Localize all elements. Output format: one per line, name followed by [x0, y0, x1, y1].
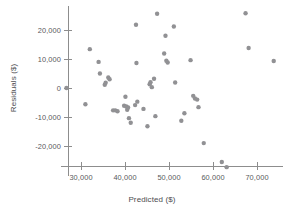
data-point: [115, 109, 119, 113]
x-axis-tick-label: 50,000: [157, 173, 180, 182]
data-point: [173, 80, 177, 84]
data-point: [83, 102, 87, 106]
data-point: [188, 58, 192, 62]
data-point: [152, 77, 156, 81]
x-axis-tick-label: 30,000: [69, 173, 92, 182]
data-point: [145, 124, 149, 128]
data-point: [135, 99, 139, 103]
data-point: [107, 77, 111, 81]
data-point: [64, 86, 68, 90]
data-point: [103, 81, 107, 85]
data-point: [129, 121, 133, 125]
data-point: [202, 141, 206, 145]
x-axis-tick-label: 40,000: [113, 173, 136, 182]
y-axis-tick-label: -10,000: [35, 113, 61, 122]
data-point: [134, 23, 138, 27]
data-point: [272, 59, 276, 63]
data-point: [134, 61, 138, 65]
x-axis-tick-label: 60,000: [201, 173, 224, 182]
data-point: [165, 60, 169, 64]
data-point: [127, 116, 131, 120]
data-point: [182, 111, 186, 115]
chart-canvas: 20,00010,0000-10,000-20,000 30,00040,000…: [0, 0, 285, 206]
data-point: [155, 12, 159, 16]
data-point: [153, 114, 157, 118]
data-point: [220, 160, 224, 164]
data-point: [243, 11, 247, 15]
y-axis-tick-label: 10,000: [38, 55, 61, 64]
data-point: [141, 107, 145, 111]
data-point: [195, 97, 199, 101]
data-point: [123, 95, 127, 99]
data-point: [98, 71, 102, 75]
data-point: [150, 85, 154, 89]
x-axis-title: Predicted ($): [128, 195, 175, 204]
data-point: [126, 105, 130, 109]
data-point: [224, 165, 228, 169]
data-point: [196, 105, 200, 109]
data-point: [88, 47, 92, 51]
y-axis-tick-label: -20,000: [35, 142, 61, 151]
x-axis: 30,00040,00050,00060,00070,000: [61, 162, 283, 182]
y-axis: 20,00010,0000-10,000-20,000: [35, 6, 72, 176]
data-point: [162, 51, 166, 55]
y-axis-tick-label: 20,000: [38, 26, 61, 35]
x-axis-tick-label: 70,000: [245, 173, 268, 182]
data-point: [246, 46, 250, 50]
data-point: [96, 60, 100, 64]
data-point: [148, 80, 152, 84]
data-point: [163, 34, 167, 38]
data-point: [172, 24, 176, 28]
y-axis-title: Residuals ($): [9, 64, 18, 113]
data-points-layer: [64, 11, 276, 169]
y-axis-tick-label: 0: [57, 84, 61, 93]
residual-scatter-plot: 20,00010,0000-10,000-20,000 30,00040,000…: [0, 0, 285, 206]
data-point: [179, 119, 183, 123]
